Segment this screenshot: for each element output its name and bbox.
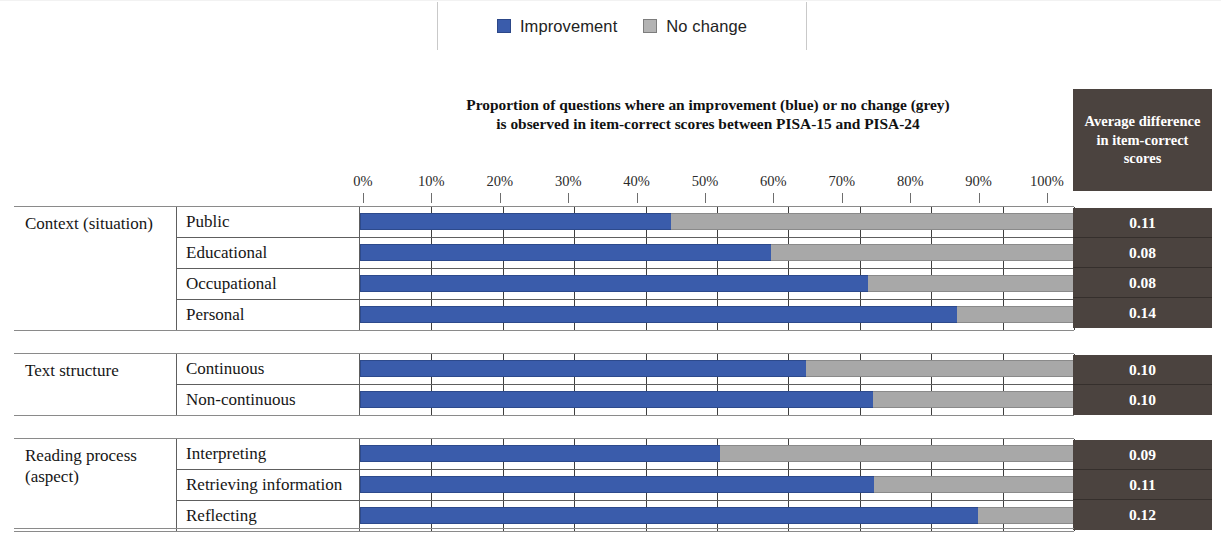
row-label: Personal	[177, 305, 359, 325]
group-label: Text structure	[14, 354, 177, 415]
stacked-bar[interactable]	[360, 244, 1074, 261]
chart-row[interactable]: Retrieving information	[177, 470, 1074, 501]
grey-square-swatch-icon	[643, 19, 657, 33]
axis-tick-label: 60%	[760, 173, 787, 190]
bar-segment-no-change[interactable]	[671, 213, 1074, 230]
bar-segment-no-change[interactable]	[978, 507, 1074, 524]
chart-row[interactable]: Non-continuous	[177, 385, 1074, 415]
row-label: Retrieving information	[177, 475, 359, 495]
bar-segment-improvement[interactable]	[360, 306, 957, 323]
stacked-bar[interactable]	[360, 213, 1074, 230]
legend-item-no-change: No change	[643, 17, 747, 36]
axis-tick-mark	[500, 193, 501, 203]
row-plot-area	[359, 470, 1074, 500]
row-plot-area	[359, 385, 1074, 415]
bar-segment-improvement[interactable]	[360, 360, 806, 377]
average-difference-value: 0.10	[1073, 385, 1212, 415]
bar-segment-no-change[interactable]	[806, 360, 1074, 377]
axis-tick-mark	[773, 193, 774, 203]
bar-segment-improvement[interactable]	[360, 213, 671, 230]
average-difference-value: 0.12	[1073, 500, 1212, 530]
legend-label-no-change: No change	[666, 17, 747, 36]
bar-segment-no-change[interactable]	[874, 476, 1074, 493]
row-label: Reflecting	[177, 506, 359, 526]
axis-tick-label: 10%	[418, 173, 445, 190]
legend-item-improvement: Improvement	[497, 17, 617, 36]
chart-row[interactable]: Educational	[177, 238, 1074, 269]
axis-tick-label: 100%	[1030, 173, 1064, 190]
chart-row[interactable]: Reflecting	[177, 501, 1074, 531]
stacked-bar[interactable]	[360, 306, 1074, 323]
axis-tick-label: 40%	[623, 173, 650, 190]
average-difference-value: 0.08	[1073, 238, 1212, 268]
legend-label-improvement: Improvement	[520, 17, 617, 36]
bar-segment-improvement[interactable]	[360, 507, 978, 524]
blue-square-swatch-icon	[497, 19, 511, 33]
chart-row[interactable]: Personal	[177, 300, 1074, 330]
top-divider	[0, 0, 1221, 1]
row-plot-area	[359, 300, 1074, 330]
chart-group: Reading process (aspect)InterpretingRetr…	[14, 438, 1074, 532]
chart-legend: Improvement No change	[437, 2, 807, 50]
average-difference-value: 0.11	[1073, 208, 1212, 238]
average-difference-value: 0.10	[1073, 355, 1212, 385]
stacked-bar[interactable]	[360, 445, 1074, 462]
stacked-bar[interactable]	[360, 275, 1074, 292]
bar-segment-no-change[interactable]	[771, 244, 1074, 261]
axis-tick-label: 80%	[897, 173, 924, 190]
row-plot-area	[359, 269, 1074, 299]
average-difference-column: 0.110.080.080.14	[1073, 208, 1212, 328]
bar-segment-no-change[interactable]	[957, 306, 1074, 323]
row-label: Non-continuous	[177, 390, 359, 410]
bar-segment-no-change[interactable]	[720, 445, 1074, 462]
stacked-bar[interactable]	[360, 476, 1074, 493]
bar-segment-no-change[interactable]	[868, 275, 1074, 292]
chart-row[interactable]: Occupational	[177, 269, 1074, 300]
axis-tick-mark	[705, 193, 706, 203]
stacked-bar[interactable]	[360, 360, 1074, 377]
average-difference-column: 0.090.110.12	[1073, 440, 1212, 530]
stacked-bar[interactable]	[360, 507, 1074, 524]
stacked-bar[interactable]	[360, 391, 1074, 408]
row-plot-area	[359, 207, 1074, 237]
bar-segment-improvement[interactable]	[360, 391, 873, 408]
axis-tick-mark	[1047, 193, 1048, 203]
row-plot-area	[359, 501, 1074, 531]
axis-tick-mark	[637, 193, 638, 203]
average-difference-value: 0.09	[1073, 440, 1212, 470]
group-rows: ContinuousNon-continuous	[177, 354, 1074, 415]
bar-segment-improvement[interactable]	[360, 244, 771, 261]
axis-tick-mark	[842, 193, 843, 203]
average-difference-value: 0.14	[1073, 298, 1212, 328]
bottom-divider	[14, 528, 1074, 529]
row-plot-area	[359, 439, 1074, 469]
chart-row[interactable]: Continuous	[177, 354, 1074, 385]
group-label: Context (situation)	[14, 207, 177, 330]
chart-row[interactable]: Public	[177, 207, 1074, 238]
bar-segment-improvement[interactable]	[360, 445, 720, 462]
group-label: Reading process (aspect)	[14, 439, 177, 531]
chart-row[interactable]: Interpreting	[177, 439, 1074, 470]
row-label: Continuous	[177, 359, 359, 379]
bar-segment-no-change[interactable]	[873, 391, 1074, 408]
row-label: Educational	[177, 243, 359, 263]
chart-group: Context (situation)PublicEducationalOccu…	[14, 206, 1074, 331]
bar-segment-improvement[interactable]	[360, 275, 868, 292]
chart-group-box: Reading process (aspect)InterpretingRetr…	[14, 438, 1074, 532]
average-difference-value: 0.08	[1073, 268, 1212, 298]
row-label: Interpreting	[177, 444, 359, 464]
average-difference-value: 0.11	[1073, 470, 1212, 500]
axis-tick-label: 0%	[353, 173, 372, 190]
axis-tick-label: 20%	[487, 173, 514, 190]
group-rows: InterpretingRetrieving informationReflec…	[177, 439, 1074, 531]
bar-segment-improvement[interactable]	[360, 476, 874, 493]
axis-tick-mark	[363, 193, 364, 203]
chart-title-line-2: is observed in item-correct scores betwe…	[358, 114, 1058, 133]
chart-title-line-1: Proportion of questions where an improve…	[358, 95, 1058, 114]
row-plot-area	[359, 354, 1074, 384]
chart-group-box: Context (situation)PublicEducationalOccu…	[14, 206, 1074, 331]
axis-tick-mark	[431, 193, 432, 203]
axis-tick-mark	[910, 193, 911, 203]
axis-tick-label: 70%	[829, 173, 856, 190]
axis-tick-label: 50%	[692, 173, 719, 190]
